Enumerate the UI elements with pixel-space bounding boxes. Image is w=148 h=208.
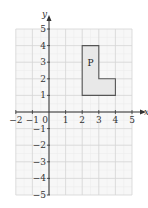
y-tick-label: −5 <box>33 190 47 200</box>
y-tick-label: 3 <box>40 57 46 67</box>
y-tick-label: 1 <box>40 90 46 100</box>
y-axis-label: y <box>41 9 48 19</box>
y-tick-label: −4 <box>33 173 47 183</box>
x-tick-label: 1 <box>63 115 69 125</box>
x-tick-label: −2 <box>9 115 22 125</box>
y-tick-label: 5 <box>40 24 46 34</box>
x-tick-label: 5 <box>129 115 135 125</box>
y-tick-label: 4 <box>40 41 46 51</box>
shape-label: P <box>87 58 93 68</box>
x-axis-label: x <box>144 107 148 117</box>
x-tick-label: 2 <box>79 115 85 125</box>
y-tick-label: −2 <box>33 140 46 150</box>
y-tick-label: −1 <box>33 124 46 134</box>
x-tick-label: 3 <box>96 115 102 125</box>
y-tick-label: 2 <box>40 74 46 84</box>
x-tick-label: 4 <box>113 115 119 125</box>
y-axis-arrow-icon <box>47 15 52 21</box>
y-tick-label: −3 <box>33 157 47 167</box>
coordinate-grid: Pxy−2−101234554321−1−2−3−4−5 <box>0 0 148 208</box>
